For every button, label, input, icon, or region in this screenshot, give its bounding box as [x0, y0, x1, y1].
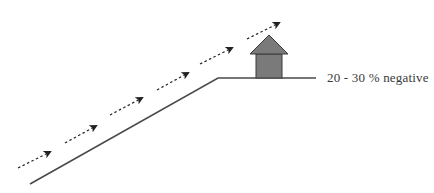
wind-arrow-icon [157, 73, 188, 90]
terrain-diagram [0, 0, 434, 193]
slope-ground-line [30, 78, 316, 184]
wind-arrow-icon [18, 152, 50, 168]
percentage-label: 20 - 30 % negative [327, 70, 429, 86]
house-body [256, 54, 282, 78]
wind-arrow-icon [65, 126, 96, 143]
diagram-canvas: 20 - 30 % negative [0, 0, 434, 193]
house-roof [250, 35, 288, 54]
wind-arrow-icon [247, 23, 279, 39]
ground-line [30, 78, 316, 184]
house-icon [250, 35, 288, 78]
wind-arrow-icon [110, 98, 142, 115]
wind-arrow-icon [200, 48, 232, 64]
wind-arrows [18, 23, 279, 168]
